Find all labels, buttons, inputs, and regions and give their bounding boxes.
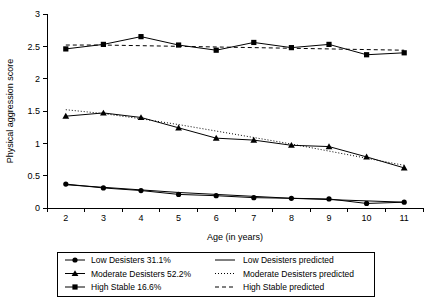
data-point-circle: [63, 181, 68, 186]
x-axis-title: Age (in years): [207, 232, 263, 242]
physical-aggression-chart: 00.511.522.53 234567891011 Physical aggr…: [0, 0, 431, 300]
data-point-square: [289, 45, 294, 50]
data-point-triangle: [100, 110, 107, 116]
legend-label: Moderate Desisters 52.2%: [91, 269, 192, 279]
chart-legend: Low Desisters 31.1%Moderate Desisters 52…: [57, 252, 374, 296]
data-point-circle: [72, 257, 77, 262]
data-point-square: [326, 42, 331, 47]
data-point-circle: [364, 201, 369, 206]
data-point-circle: [214, 193, 219, 198]
series-low_desisters: [63, 181, 407, 206]
data-point-square: [101, 42, 106, 47]
y-tick-group: 00.511.522.53: [27, 9, 47, 213]
y-tick-label: 3: [35, 9, 40, 19]
x-tick-label: 9: [326, 213, 331, 223]
y-tick-label: 0: [35, 203, 40, 213]
y-tick-label: 2.5: [27, 42, 40, 52]
data-point-circle: [138, 188, 143, 193]
legend-label: Low Desisters predicted: [243, 255, 334, 265]
series-line: [66, 185, 404, 202]
y-axis-title: Physical aggression score: [5, 59, 15, 164]
series-line: [66, 45, 404, 50]
x-tick-label: 10: [362, 213, 372, 223]
data-point-square: [63, 46, 68, 51]
data-point-circle: [176, 192, 181, 197]
data-point-square: [251, 40, 256, 45]
x-tick-label: 4: [138, 213, 143, 223]
x-tick-label: 11: [400, 213, 409, 223]
x-tick-label: 7: [251, 213, 256, 223]
legend-label: High Stable 16.6%: [91, 282, 162, 292]
x-axis-group: 234567891011: [47, 208, 423, 223]
legend-label: Moderate Desisters predicted: [243, 269, 354, 279]
x-tick-label: 8: [289, 213, 294, 223]
series-low_desisters_predicted: [66, 185, 404, 202]
series-line: [66, 110, 404, 166]
chart-svg: 00.511.522.53 234567891011 Physical aggr…: [0, 0, 431, 300]
data-point-square: [364, 52, 369, 57]
data-point-square: [214, 48, 219, 53]
x-tick-group: 234567891011: [47, 208, 423, 223]
y-axis-group: 00.511.522.53: [27, 9, 47, 213]
x-tick-label: 2: [63, 213, 68, 223]
series-high_stable_predicted: [66, 45, 404, 50]
x-tick-label: 6: [214, 213, 219, 223]
legend-label: Low Desisters 31.1%: [91, 255, 171, 265]
y-tick-label: 1: [35, 139, 40, 149]
series-high_stable: [63, 34, 407, 57]
series-group: [62, 34, 407, 206]
y-tick-label: 2: [35, 74, 40, 84]
x-tick-label: 3: [101, 213, 106, 223]
data-point-square: [138, 34, 143, 39]
series-moderate_desisters: [62, 110, 407, 171]
x-tick-label: 5: [176, 213, 181, 223]
data-point-circle: [101, 185, 106, 190]
data-point-square: [176, 42, 181, 47]
data-point-circle: [289, 196, 294, 201]
data-point-circle: [326, 196, 331, 201]
series-moderate_desisters_predicted: [66, 110, 404, 166]
data-point-circle: [251, 195, 256, 200]
series-line: [66, 113, 404, 168]
data-point-circle: [402, 200, 407, 205]
y-tick-label: 0.5: [27, 171, 40, 181]
data-point-square: [402, 50, 407, 55]
y-tick-label: 1.5: [27, 106, 40, 116]
legend-label: High Stable predicted: [243, 282, 325, 292]
data-point-square: [72, 284, 77, 289]
